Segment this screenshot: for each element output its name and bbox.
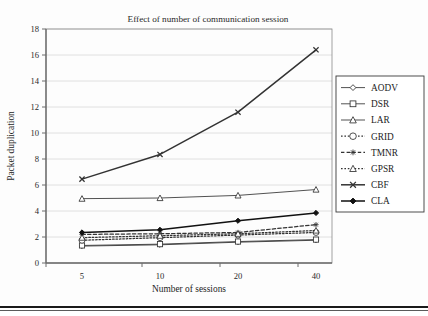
legend-label: CBF xyxy=(371,180,389,190)
y-tick-label: 4 xyxy=(35,206,40,216)
x-tick-label: 40 xyxy=(312,271,321,281)
x-tick-label: 10 xyxy=(156,271,165,281)
legend-label: AODV xyxy=(371,83,398,93)
marker-square-open xyxy=(157,242,162,247)
chart-figure: Effect of number of communication sessio… xyxy=(0,0,428,316)
y-tick-label: 6 xyxy=(35,180,40,190)
marker-square-open xyxy=(313,237,318,242)
page-rule-thin xyxy=(0,310,428,311)
page-rule-thick xyxy=(0,306,428,308)
y-tick-label: 8 xyxy=(35,154,39,164)
x-tick-label: 20 xyxy=(234,271,243,281)
y-tick-label: 16 xyxy=(30,50,39,60)
y-tick-label: 10 xyxy=(30,128,39,138)
chart-title: Effect of number of communication sessio… xyxy=(128,14,289,24)
y-tick-label: 2 xyxy=(35,232,39,242)
marker-asterisk xyxy=(313,222,318,227)
legend-marker-sample xyxy=(350,133,357,140)
legend-marker-sample xyxy=(350,150,356,156)
legend-label: GPSR xyxy=(371,164,395,174)
y-tick-label: 12 xyxy=(30,102,39,112)
x-axis-label: Number of sessions xyxy=(152,284,226,294)
legend-label: CLA xyxy=(371,196,390,206)
legend-label: LAR xyxy=(371,115,390,125)
y-tick-label: 0 xyxy=(35,258,39,268)
legend-label: DSR xyxy=(371,99,390,109)
legend-box xyxy=(336,76,424,212)
chart-legend[interactable]: AODVDSRLARGRIDTMNRGPSRCBFCLA xyxy=(336,76,424,212)
y-tick-label: 14 xyxy=(30,76,39,86)
legend-label: GRID xyxy=(371,132,394,142)
y-tick-label: 18 xyxy=(30,24,39,34)
legend-marker-sample xyxy=(350,101,356,107)
marker-square-open xyxy=(235,239,240,244)
x-tick-label: 5 xyxy=(80,271,84,281)
page-bottom-edge xyxy=(0,304,428,316)
legend-label: TMNR xyxy=(371,148,399,158)
line-chart: Effect of number of communication sessio… xyxy=(0,0,428,316)
y-axis-label: Packet duplication xyxy=(6,111,16,181)
